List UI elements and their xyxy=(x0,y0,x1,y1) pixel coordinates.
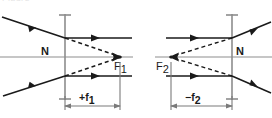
focal-length-label-right: −f2 xyxy=(185,91,201,106)
construction-line-upper-right xyxy=(170,38,232,57)
converging-lens-panel: N F1 +f1 xyxy=(0,14,133,110)
focal-point-dot-left xyxy=(118,55,121,58)
construction-line-lower-right xyxy=(170,57,232,76)
arrowhead-refracted-lower-right xyxy=(250,79,259,87)
nodal-point-label-right: N xyxy=(236,45,244,57)
ray-diagram-svg: N F1 +f1 xyxy=(0,0,272,118)
nodal-point-label-left: N xyxy=(41,45,49,57)
arrowhead-incident-lower-right xyxy=(190,72,199,79)
arrowhead-refracted-upper-left xyxy=(91,34,100,41)
arrowhead-refracted-lower-left xyxy=(91,72,100,79)
arrowhead-incident-upper-left xyxy=(28,26,36,32)
focal-length-label-left: +f1 xyxy=(79,91,95,106)
diverging-lens-panel: N F2 −f2 xyxy=(155,14,272,110)
optics-figure: Figure xyxy=(0,0,272,118)
arrowhead-incident-upper-right xyxy=(190,34,199,41)
arrowhead-refracted-upper-right xyxy=(250,28,259,36)
focal-point-label-right: F2 xyxy=(156,60,169,75)
focal-point-dot-right xyxy=(169,55,172,58)
